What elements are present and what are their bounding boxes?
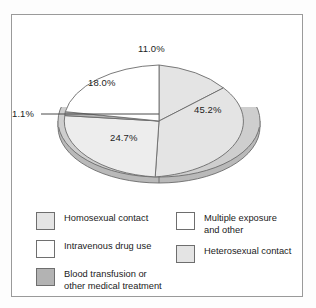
- slice-label-homosexual: 11.0%: [138, 43, 165, 54]
- legend-item-heterosexual-contact: Heterosexual contact: [176, 244, 306, 264]
- slice-label-intravenous: 24.7%: [110, 132, 137, 143]
- legend-item-homosexual-contact: Homosexual contact: [36, 211, 176, 231]
- legend-swatch-heterosexual-contact: [176, 245, 195, 263]
- legend-label-heterosexual-contact: Heterosexual contact: [204, 244, 291, 258]
- chart-legend: Homosexual contact Intravenous drug use …: [24, 211, 292, 295]
- figure-canvas: 11.0% 18.0% 45.2% 24.7% 1.1% Homosexual …: [0, 0, 316, 308]
- legend-label-multiple-exposure: Multiple exposure and other: [204, 211, 277, 236]
- legend-swatch-multiple-exposure: [176, 212, 195, 230]
- pie-slice-multiple-exposure: [65, 65, 159, 121]
- pie-slice-intravenous: [64, 116, 159, 177]
- legend-column-left: Homosexual contact Intravenous drug use …: [36, 211, 176, 300]
- legend-item-blood-transfusion: Blood transfusion or other medical treat…: [36, 267, 176, 292]
- legend-swatch-blood-transfusion: [36, 268, 55, 286]
- legend-label-blood-transfusion: Blood transfusion or other medical treat…: [64, 267, 162, 292]
- pie-chart: 11.0% 18.0% 45.2% 24.7% 1.1%: [12, 15, 304, 205]
- legend-swatch-intravenous-drug-use: [36, 240, 55, 258]
- slice-label-multiple-exposure: 18.0%: [88, 77, 115, 88]
- legend-item-intravenous-drug-use: Intravenous drug use: [36, 239, 176, 259]
- chart-frame: 11.0% 18.0% 45.2% 24.7% 1.1% Homosexual …: [11, 14, 303, 297]
- slice-label-heterosexual: 45.2%: [194, 104, 221, 115]
- slice-label-blood-transfusion: 1.1%: [12, 108, 34, 119]
- legend-column-right: Multiple exposure and other Heterosexual…: [176, 211, 306, 272]
- legend-label-homosexual-contact: Homosexual contact: [64, 211, 148, 225]
- legend-swatch-homosexual-contact: [36, 212, 55, 230]
- legend-label-intravenous-drug-use: Intravenous drug use: [64, 239, 151, 253]
- legend-item-multiple-exposure: Multiple exposure and other: [176, 211, 306, 236]
